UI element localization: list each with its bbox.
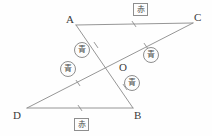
segment-DC (27, 23, 193, 108)
vertex-label-a: A (66, 14, 74, 25)
marker-blue-upper-right: 青 (143, 47, 159, 63)
vertex-label-c: C (194, 12, 201, 23)
marker-blue-lower-right: 青 (124, 75, 140, 91)
segments-group (27, 23, 193, 108)
marker-blue-lower-left: 青 (60, 61, 76, 77)
vertex-label-o: O (119, 62, 127, 73)
marker-red-top: 赤 (133, 3, 148, 16)
marker-blue-upper-left: 青 (74, 42, 90, 58)
vertex-label-d: D (13, 110, 21, 121)
tick-marks-group (76, 21, 148, 110)
marker-red-bottom: 赤 (74, 118, 89, 131)
figure-canvas (0, 0, 212, 136)
vertex-label-b: B (134, 110, 141, 121)
tick-AO (94, 42, 98, 47)
geometry-figure: ABCDO 赤赤青青青青 (0, 0, 212, 136)
